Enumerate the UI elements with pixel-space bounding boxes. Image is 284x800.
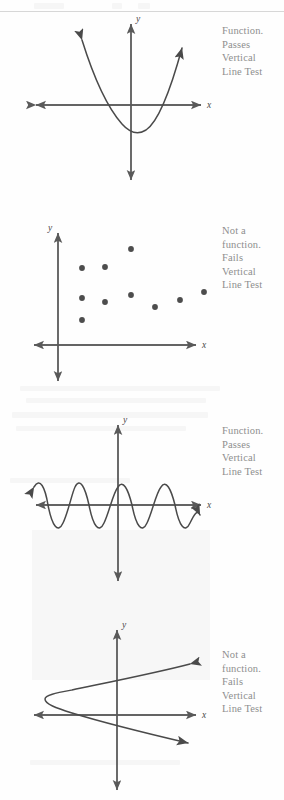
caption-line: function. [222, 663, 261, 674]
caption-function-passes: Function.PassesVerticalLine Test [222, 24, 263, 78]
x-axis-label: x [201, 710, 207, 720]
data-point [201, 289, 207, 295]
caption-line: Fails [222, 676, 243, 687]
data-point [102, 299, 108, 305]
data-point [128, 246, 134, 252]
caption-line: Vertical [222, 52, 256, 63]
caption-line: Line Test [222, 66, 262, 77]
caption-line: Not a [222, 225, 246, 236]
caption-line: Function. [222, 25, 263, 36]
caption-line: Line Test [222, 279, 262, 290]
x-axis-label: x [206, 500, 212, 510]
caption-line: Line Test [222, 466, 262, 477]
data-point [79, 295, 85, 301]
caption-line: Vertical [222, 452, 256, 463]
caption-line: Vertical [222, 690, 256, 701]
caption-line: Function. [222, 425, 263, 436]
caption-line: Vertical [222, 266, 256, 277]
caption-line: Line Test [222, 703, 262, 714]
caption-not-a-function-fails: Not afunction.FailsVerticalLine Test [222, 648, 262, 716]
y-axis-label: y [135, 14, 141, 24]
data-point [79, 317, 85, 323]
data-point [79, 265, 85, 271]
caption-line: function. [222, 239, 261, 250]
y-axis-label: y [47, 223, 53, 233]
data-point [177, 297, 183, 303]
parabola-curve [82, 40, 182, 133]
figure-panel-rightward-parabola: y x Not afunction.FailsVerticalLine Test [0, 600, 284, 800]
caption-line: Fails [222, 252, 243, 263]
data-point [102, 264, 108, 270]
figure-panel-upward-parabola: y x Function.PassesVerticalLine Test [0, 0, 284, 195]
scanned-figure-page: y x Function.PassesVerticalLine Test [0, 0, 284, 800]
x-axis-label: x [201, 340, 207, 350]
caption-function-passes: Function.PassesVerticalLine Test [222, 424, 263, 478]
caption-line: Passes [222, 39, 250, 50]
data-point [128, 292, 134, 298]
figure-panel-scatter: y x Not afunction.FailsVerticalLine Test [0, 195, 284, 395]
y-axis-label: y [122, 415, 128, 425]
caption-not-a-function-fails: Not afunction.FailsVerticalLine Test [222, 224, 262, 292]
data-point [152, 304, 158, 310]
figure-panel-sine-wave: y x Function.PassesVerticalLine Test [0, 395, 284, 600]
y-axis-label: y [121, 620, 127, 630]
caption-line: Not a [222, 649, 246, 660]
caption-line: Passes [222, 439, 250, 450]
x-axis-label: x [206, 100, 212, 110]
